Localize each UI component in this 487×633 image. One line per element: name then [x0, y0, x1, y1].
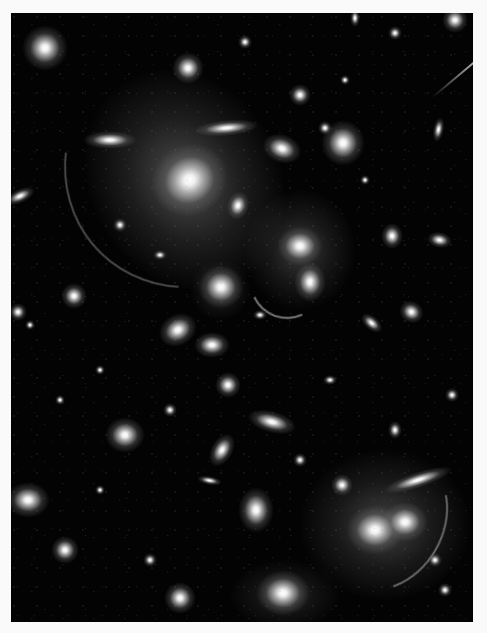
galaxy-cluster-image [11, 13, 473, 622]
background-noise [11, 13, 473, 622]
